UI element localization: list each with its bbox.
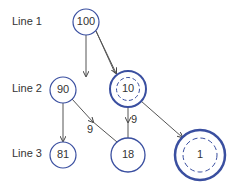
- row-label-line3: Line 3: [12, 147, 42, 159]
- edge-100-10: [96, 31, 116, 73]
- row-label-line2: Line 2: [12, 82, 42, 94]
- node-label-100: 100: [76, 15, 96, 27]
- node-label-18: 18: [118, 148, 138, 160]
- edge-90-18: [72, 99, 93, 122]
- row-label-line1: Line 1: [12, 15, 42, 27]
- edge-90-18-b: [92, 121, 117, 142]
- edge-label-10-18: 9: [131, 113, 137, 125]
- node-label-81: 81: [53, 148, 73, 160]
- edge-label-90-18: 9: [87, 123, 93, 135]
- node-label-90: 90: [53, 83, 73, 95]
- node-label-10: 10: [118, 82, 138, 94]
- node-label-1: 1: [190, 148, 210, 160]
- edge-10-1: [141, 101, 182, 137]
